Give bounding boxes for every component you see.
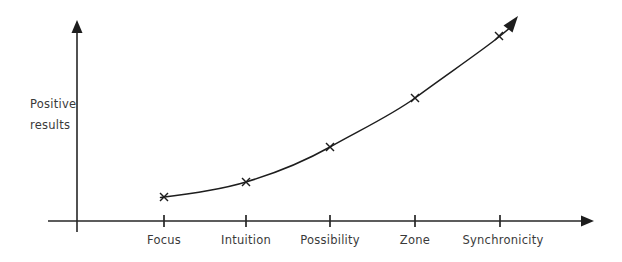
x-tick-label-focus: Focus bbox=[147, 233, 181, 247]
x-tick-label-zone: Zone bbox=[400, 233, 430, 247]
chart-figure: Positive results Focus Intuition Possibi… bbox=[0, 0, 622, 262]
data-point-marker-zone bbox=[411, 94, 419, 102]
x-tick-label-intuition: Intuition bbox=[221, 233, 271, 247]
y-axis-label: Positive results bbox=[30, 94, 90, 136]
data-point-marker-synchronicity bbox=[495, 32, 503, 40]
x-tick-label-synchronicity: Synchronicity bbox=[462, 233, 543, 247]
data-curve-arrow-icon bbox=[504, 16, 519, 33]
x-axis-arrow-icon bbox=[581, 216, 594, 227]
y-axis-arrow-icon bbox=[72, 20, 83, 33]
chart-canvas bbox=[0, 0, 622, 262]
data-curve-positive-results bbox=[161, 27, 512, 198]
x-tick-label-possibility: Possibility bbox=[300, 233, 360, 247]
data-point-marker-possibility bbox=[326, 143, 334, 151]
data-point-marker-intuition bbox=[242, 178, 250, 186]
